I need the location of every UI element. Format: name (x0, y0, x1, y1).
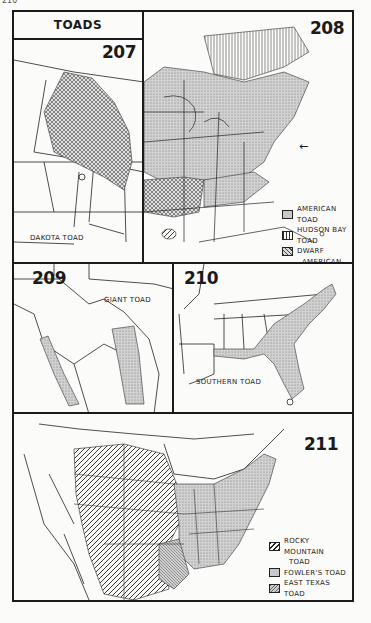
legend-label: FOWLER'S TOAD (284, 568, 346, 579)
legend-label: EAST TEXAS TOAD (284, 578, 352, 599)
wide-diagonal-swatch-icon (269, 542, 280, 551)
panel-number-209: 209 (32, 268, 66, 288)
map-panel-209: 209 GIANT TOAD (14, 264, 174, 414)
species-label-southern-toad: SOUTHERN TOAD (196, 378, 261, 386)
legend-208: AMERICAN TOAD HUDSON BAY TOAD DWARF AMER… (282, 204, 352, 264)
legend-label: AMERICAN TOAD (297, 204, 352, 225)
species-label-dakota-toad: DAKOTA TOAD (30, 234, 84, 242)
vertical-lines-swatch-icon (282, 231, 293, 240)
panel-number-210: 210 (184, 268, 218, 288)
map-panel-211: 211 ROCKY MOUNTAIN TOAD FOWLER'S TOAD EA… (14, 414, 352, 600)
legend-item-rocky-mountain-toad: ROCKY MOUNTAIN (269, 536, 352, 557)
legend-label: HUDSON BAY TOAD (297, 225, 352, 246)
panel-number-211: 211 (304, 434, 338, 454)
crosshatch-swatch-icon (282, 247, 293, 256)
panel-number-207: 207 (102, 42, 136, 62)
map-panel-208: 208 ← AMERICAN TOAD HUDSON BAY TOAD DWAR… (144, 12, 352, 264)
map-panel-210: 210 SOUTHERN TOAD (174, 264, 352, 414)
legend-label: DWARF (297, 246, 324, 257)
species-label-giant-toad: GIANT TOAD (104, 296, 151, 304)
legend-item-american-toad: AMERICAN TOAD (282, 204, 352, 225)
legend-label-cont: AMERICAN TOAD (282, 257, 352, 265)
map-panel-207: TOADS 207 DAKOTA TOAD (14, 12, 144, 264)
legend-item-east-texas-toad: EAST TEXAS TOAD (269, 578, 352, 599)
legend-item-hudson-bay-toad: HUDSON BAY TOAD (282, 225, 352, 246)
legend-label: ROCKY MOUNTAIN (284, 536, 352, 557)
figure-title: TOADS (14, 12, 142, 40)
stipple-swatch-icon (282, 210, 293, 219)
legend-211: ROCKY MOUNTAIN TOAD FOWLER'S TOAD EAST T… (269, 536, 352, 599)
legend-label-cont: TOAD (269, 557, 352, 568)
legend-item-fowlers-toad: FOWLER'S TOAD (269, 568, 352, 579)
arrow-left-icon: ← (299, 140, 308, 153)
fine-diagonal-swatch-icon (269, 584, 280, 593)
page-number: 210 (2, 0, 17, 5)
panel-number-208: 208 (310, 18, 344, 38)
figure-frame: TOADS 207 DAKOTA TOAD (12, 10, 354, 602)
legend-item-dwarf-american-toad: DWARF (282, 246, 352, 257)
stipple-swatch-icon (269, 568, 280, 577)
